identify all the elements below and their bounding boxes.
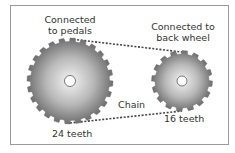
front-gear-hub <box>65 76 76 87</box>
front-gear-label-line-1: Connected <box>42 14 98 25</box>
rear-gear-teeth-label: 16 teeth <box>164 113 204 124</box>
front-gear-24-teeth <box>27 38 113 124</box>
front-gear-teeth-label: 24 teeth <box>52 128 92 139</box>
rear-gear-label-line-1: Connected to <box>150 21 216 32</box>
rear-gear-hub <box>177 76 187 86</box>
front-gear-label: Connected to pedals <box>42 14 98 36</box>
chain-label: Chain <box>118 99 145 110</box>
rear-gear-label-line-2: back wheel <box>150 32 216 43</box>
front-gear-label-line-2: to pedals <box>42 25 98 36</box>
rear-gear-label: Connected to back wheel <box>150 21 216 43</box>
rear-gear-16-teeth <box>152 51 213 112</box>
